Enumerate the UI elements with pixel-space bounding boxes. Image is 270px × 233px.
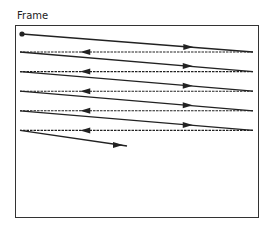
forward-scan-line bbox=[20, 111, 253, 131]
forward-arrow-icon bbox=[183, 102, 193, 108]
return-arrow-icon bbox=[80, 49, 90, 55]
return-arrow-icon bbox=[80, 69, 90, 75]
return-arrow-icon bbox=[80, 127, 90, 133]
forward-arrow-icon bbox=[183, 44, 193, 50]
forward-scan-line bbox=[22, 34, 253, 52]
forward-arrow-icon bbox=[183, 63, 193, 69]
forward-scan-line bbox=[20, 52, 253, 72]
forward-scan-line bbox=[20, 72, 253, 92]
raster-scan-diagram bbox=[0, 0, 270, 233]
forward-scan-line bbox=[20, 91, 253, 111]
forward-scan-line bbox=[20, 130, 127, 146]
forward-arrow-icon bbox=[113, 142, 123, 148]
return-arrow-icon bbox=[80, 108, 90, 114]
forward-arrow-icon bbox=[183, 83, 193, 89]
forward-arrow-icon bbox=[183, 122, 193, 128]
return-arrow-icon bbox=[80, 88, 90, 94]
start-dot-icon bbox=[19, 31, 24, 36]
